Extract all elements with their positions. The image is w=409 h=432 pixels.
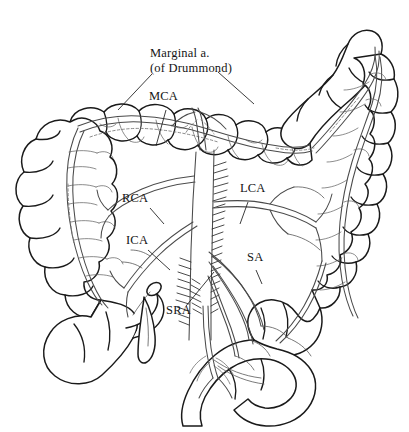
anatomical-figure: Marginal a. (of Drummond) MCA RCA ICA LC…	[0, 0, 409, 432]
label-sra: SRA	[166, 303, 191, 318]
label-lca: LCA	[240, 181, 266, 196]
leader-marginal-left	[118, 74, 152, 110]
ascending-colon	[16, 118, 118, 317]
label-sa: SA	[247, 250, 263, 265]
label-marginal-artery: Marginal a. (of Drummond)	[150, 46, 232, 75]
leader-sa	[256, 270, 262, 284]
leader-rca	[150, 208, 164, 224]
label-mca: MCA	[149, 89, 178, 104]
leader-ica	[148, 250, 170, 270]
leader-lca	[240, 202, 248, 224]
label-ica: ICA	[126, 233, 148, 248]
lca-artery	[214, 187, 332, 261]
label-marginal-line2: (of Drummond)	[150, 61, 232, 76]
leader-marginal-right	[218, 72, 254, 104]
inferior-mesenteric-shading	[190, 279, 202, 314]
label-rca: RCA	[122, 191, 148, 206]
label-marginal-line1: Marginal a.	[150, 46, 232, 61]
